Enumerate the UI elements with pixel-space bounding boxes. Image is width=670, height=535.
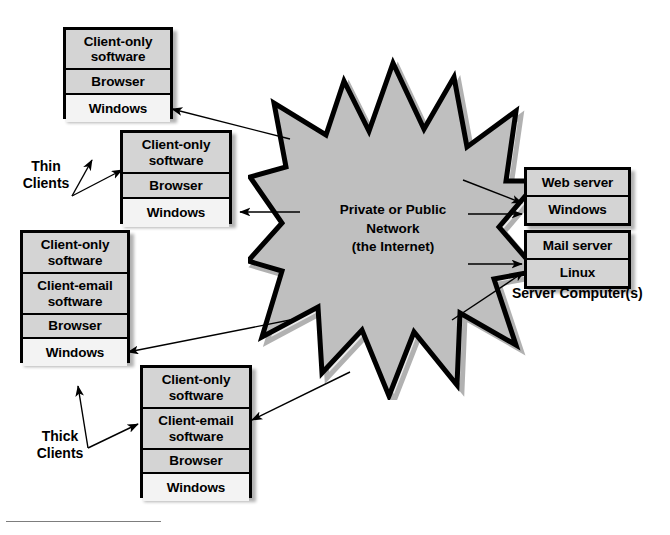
thick-client-2-box[interactable]: Client-only software Client-email softwa… xyxy=(140,365,252,498)
thick-client-1-box[interactable]: Client-only software Client-email softwa… xyxy=(20,230,130,363)
thick-client-1-row-client-only-software: Client-only software xyxy=(23,233,127,274)
footnote-separator xyxy=(6,521,161,522)
thick-client-1-row-client-email-software: Client-email software xyxy=(23,274,127,315)
thin-client-1-row-browser: Browser xyxy=(66,70,170,95)
thin-client-2-box[interactable]: Client-only software Browser Windows xyxy=(120,130,232,224)
web-server-row-name: Web server xyxy=(527,170,628,197)
thin-client-1-box[interactable]: Client-only software Browser Windows xyxy=(63,27,173,119)
web-server-row-os: Windows xyxy=(527,197,628,223)
network-label: Private or Public Network (the Internet) xyxy=(248,201,538,257)
mail-server-row-name: Mail server xyxy=(527,233,628,260)
mail-server-box[interactable]: Mail server Linux xyxy=(524,230,631,289)
thick-client-1-row-windows: Windows xyxy=(23,339,127,366)
mail-server-row-os: Linux xyxy=(527,260,628,286)
thin-client-1-row-client-only-software: Client-only software xyxy=(66,30,170,70)
thick-client-2-row-client-email-software: Client-email software xyxy=(143,409,249,450)
thick-client-2-row-client-only-software: Client-only software xyxy=(143,368,249,409)
thin-clients-label: Thin Clients xyxy=(10,158,82,192)
thick-clients-label: Thick Clients xyxy=(22,428,98,462)
thin-client-2-row-browser: Browser xyxy=(123,174,229,199)
server-computers-label: Server Computer(s) xyxy=(512,285,662,302)
diagram-canvas: Private or Public Network (the Internet)… xyxy=(0,0,670,535)
web-server-box[interactable]: Web server Windows xyxy=(524,167,631,226)
thick-client-1-row-browser: Browser xyxy=(23,315,127,339)
thin-client-1-row-windows: Windows xyxy=(66,95,170,122)
thick-client-2-row-windows: Windows xyxy=(143,474,249,501)
thin-client-2-row-windows: Windows xyxy=(123,199,229,227)
thin-client-2-row-client-only-software: Client-only software xyxy=(123,133,229,174)
thick-client-2-row-browser: Browser xyxy=(143,450,249,474)
network-star: Private or Public Network (the Internet) xyxy=(248,55,538,400)
